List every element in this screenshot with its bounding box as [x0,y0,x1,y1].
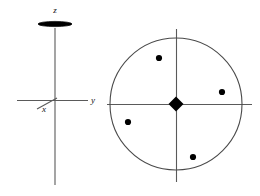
figure-canvas: z y x [0,0,260,196]
figure-root: z y x [0,0,260,196]
figure-background [0,0,260,196]
flat-disk-marker [38,21,72,26]
point-left [125,119,131,125]
x-axis-label: x [41,104,46,114]
y-axis-label: y [90,95,95,105]
point-right [219,89,225,95]
z-axis-label: z [52,5,57,15]
point-lower [190,154,196,160]
point-upper-left [156,55,162,61]
